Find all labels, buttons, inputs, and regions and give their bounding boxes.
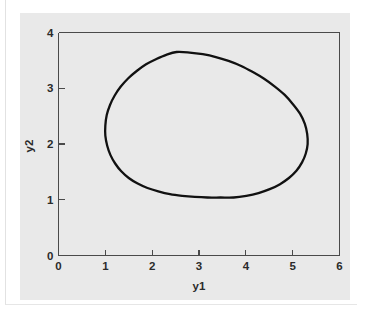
- x-tick-label: 1: [102, 260, 109, 272]
- limit-cycle-curve: [105, 52, 308, 198]
- x-tick-label: 2: [149, 260, 155, 272]
- x-tick-label: 4: [243, 260, 250, 272]
- x-tick-label: 0: [55, 260, 61, 272]
- plot-canvas: 0123456 01234 y1 y2: [0, 0, 365, 316]
- y-tick-label: 1: [47, 194, 54, 206]
- y-tick-label: 2: [47, 138, 53, 150]
- figure-root: 0123456 01234 y1 y2: [0, 0, 365, 316]
- y-ticks-group: 01234: [47, 27, 64, 262]
- x-ticks-group: 0123456: [55, 250, 342, 272]
- y-axis-title: y2: [23, 140, 35, 153]
- x-tick-label: 5: [289, 260, 296, 272]
- x-axis-title: y1: [193, 280, 206, 292]
- x-tick-label: 6: [336, 260, 342, 272]
- y-tick-label: 3: [47, 82, 53, 94]
- axes-group: [59, 33, 341, 256]
- y-tick-label: 0: [47, 250, 53, 262]
- x-tick-label: 3: [196, 260, 202, 272]
- y-tick-label: 4: [47, 27, 54, 39]
